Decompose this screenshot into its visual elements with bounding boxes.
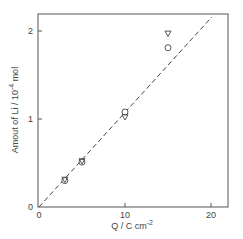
y-axis-label: Amout of Li / 10-4 mol [8, 67, 20, 153]
circle-marker [122, 109, 128, 115]
x-tick-label: 10 [120, 210, 130, 220]
x-tick-label: 20 [206, 210, 216, 220]
circle-marker [165, 45, 171, 51]
x-axis-label: Q / C cm-2 [111, 219, 153, 231]
triangle-marker [122, 115, 128, 120]
x-tick-label: 0 [36, 210, 41, 220]
y-tick-label: 0 [28, 202, 33, 212]
y-tick-label: 2 [28, 26, 33, 36]
data-series [39, 17, 212, 207]
y-tick-label: 1 [28, 114, 33, 124]
chart: 01020012 Q / C cm-2 Amout of Li / 10-4 m… [0, 0, 243, 239]
tick-labels: 01020012 [28, 26, 216, 220]
triangle-marker [165, 31, 171, 36]
